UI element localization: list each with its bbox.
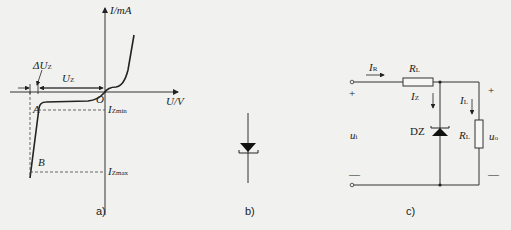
plus-right: + bbox=[488, 85, 494, 96]
minus-left: — bbox=[349, 169, 360, 180]
caption-c: c) bbox=[406, 205, 415, 217]
plus-left: + bbox=[349, 88, 355, 99]
uo-label: uo bbox=[489, 131, 498, 142]
iz-label: IZ bbox=[411, 91, 419, 102]
zener-diode-symbol bbox=[239, 113, 258, 183]
uz-label: UZ bbox=[62, 73, 74, 84]
izmax-label: IZmax bbox=[108, 166, 128, 177]
origin-label: O bbox=[96, 94, 104, 105]
izmin-label: IZmin bbox=[108, 104, 127, 115]
point-b-label: B bbox=[38, 157, 45, 168]
load-resistor-label: RL bbox=[459, 130, 470, 141]
x-axis-label: U/V bbox=[166, 96, 184, 107]
y-axis-label: I/mA bbox=[110, 5, 131, 16]
point-a-label: A bbox=[33, 104, 40, 115]
diagram-canvas bbox=[0, 0, 511, 230]
delta-uz-label: ΔUZ bbox=[33, 60, 52, 71]
series-resistor-label: RL bbox=[409, 63, 420, 74]
dz-label: DZ bbox=[410, 126, 425, 137]
caption-b: b) bbox=[245, 205, 255, 217]
ir-label: IR bbox=[369, 62, 377, 73]
dz-diode-icon bbox=[432, 128, 448, 136]
ui-label: ui bbox=[350, 130, 357, 141]
caption-a: a) bbox=[96, 205, 106, 217]
minus-right: — bbox=[488, 169, 499, 180]
delta-uz-dimension bbox=[18, 70, 42, 94]
il-label: IL bbox=[460, 95, 468, 106]
